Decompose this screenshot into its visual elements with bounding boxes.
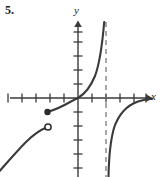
figure-container: 5. bbox=[0, 0, 161, 177]
closed-endpoint-dot bbox=[44, 109, 50, 115]
x-axis bbox=[8, 94, 153, 103]
open-endpoint-circle bbox=[45, 124, 51, 130]
y-axis-arrowhead bbox=[74, 21, 82, 28]
curve-left-branch bbox=[0, 127, 48, 174]
x-axis-label: x bbox=[151, 90, 156, 102]
curve-right-branch bbox=[109, 99, 153, 177]
graph-canvas bbox=[0, 0, 161, 177]
y-axis-label: y bbox=[74, 4, 79, 16]
